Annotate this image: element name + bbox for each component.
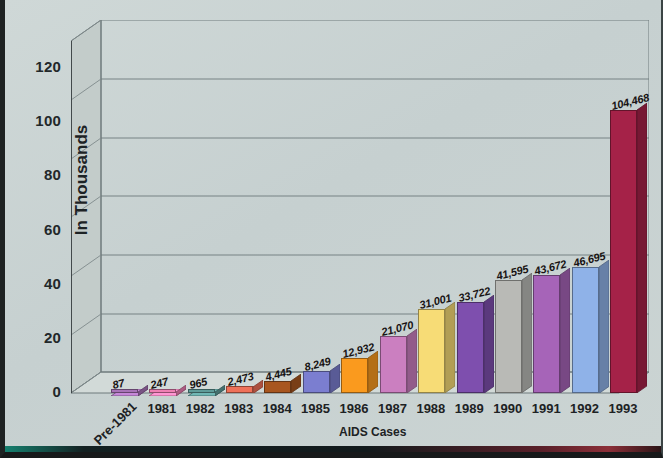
chart-image: 020406080100120 In Thousands 872479652,4… — [0, 0, 663, 458]
bar-side-face — [560, 268, 570, 393]
x-axis-tick-label: 1993 — [602, 401, 644, 416]
bar — [610, 103, 637, 393]
bar-side-face — [330, 364, 340, 393]
image-bottom-edge — [5, 446, 661, 452]
x-axis-tick-label: 1991 — [525, 401, 567, 416]
bar — [572, 260, 599, 393]
bar-side-face — [176, 382, 186, 393]
x-axis-tick-label: 1985 — [294, 401, 336, 416]
plot-area: 020406080100120 In Thousands 872479652,4… — [71, 20, 649, 394]
bar — [418, 302, 445, 393]
x-axis-tick-label: 1982 — [179, 401, 221, 416]
x-axis-tick-label: 1984 — [256, 401, 298, 416]
x-axis-tick-label: 1986 — [333, 401, 375, 416]
bar — [533, 268, 560, 393]
bar-front-face — [533, 275, 560, 393]
y-axis-tick-label: 20 — [5, 329, 61, 346]
x-axis-tick-label: 1983 — [218, 401, 260, 416]
x-axis-tick-label: 1987 — [371, 401, 413, 416]
bar — [457, 295, 484, 393]
x-axis-tick-label: 1992 — [563, 401, 605, 416]
y-axis-tick-label: 0 — [5, 383, 61, 400]
x-axis-tick-label: 1981 — [141, 401, 183, 416]
bar-front-face — [457, 302, 484, 393]
bar-front-face — [380, 336, 407, 393]
bar-side-face — [445, 302, 455, 393]
bar — [380, 329, 407, 393]
bar-side-face — [215, 382, 225, 393]
bar-side-face — [368, 351, 378, 393]
bar-side-face — [599, 260, 609, 393]
x-axis-title: AIDS Cases — [339, 425, 406, 439]
y-axis-tick-label: 120 — [5, 58, 61, 75]
bar-side-face — [484, 295, 494, 393]
bar-front-face — [495, 280, 522, 393]
bar-front-face — [572, 267, 599, 393]
bar-front-face — [303, 371, 330, 393]
bar-side-face — [138, 382, 148, 393]
x-axis-tick-label: 1989 — [448, 401, 490, 416]
bar-side-face — [637, 103, 647, 393]
y-axis-tick-label: 80 — [5, 166, 61, 183]
bar-series: 872479652,4734,4458,24912,93221,07031,00… — [71, 20, 649, 394]
bar-front-face — [264, 381, 291, 393]
bar-side-face — [522, 273, 532, 393]
bar — [495, 273, 522, 393]
bar-front-face — [341, 358, 368, 393]
x-axis-tick-label: 1988 — [410, 401, 452, 416]
y-axis-tick-label: 100 — [5, 112, 61, 129]
bar-front-face — [418, 309, 445, 393]
x-axis-tick-label: 1990 — [487, 401, 529, 416]
y-axis-tick-label: 60 — [5, 221, 61, 238]
bar-front-face — [610, 110, 637, 393]
y-axis-tick-label: 40 — [5, 275, 61, 292]
bar-side-face — [291, 374, 301, 393]
bar-side-face — [407, 329, 417, 393]
